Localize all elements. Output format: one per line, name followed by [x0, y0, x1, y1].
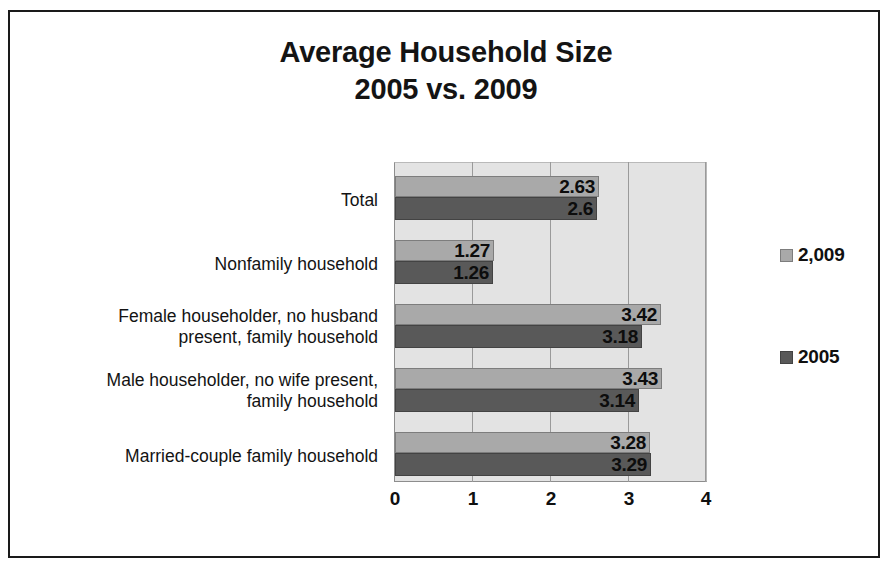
category-label-total: Total [48, 190, 378, 211]
bar-value-married-couple-2005: 3.29 [611, 454, 647, 476]
category-label-female-householder: Female householder, no husband present, … [48, 306, 378, 349]
bar-married-couple-2005[interactable]: 3.29 [395, 453, 651, 476]
bar-group-nonfamily: 1.27 1.26 [395, 240, 706, 284]
bar-male-householder-2005[interactable]: 3.14 [395, 389, 639, 412]
bar-value-nonfamily-2009: 1.27 [454, 240, 490, 262]
bar-group-total: 2.63 2.6 [395, 176, 706, 220]
bar-total-2005[interactable]: 2.6 [395, 197, 597, 220]
category-label-male-householder: Male householder, no wife present, famil… [48, 370, 378, 413]
legend-label-2009: 2,009 [798, 244, 845, 266]
chart-title-line-2: 2005 vs. 2009 [10, 71, 882, 108]
bar-nonfamily-2009[interactable]: 1.27 [395, 240, 494, 261]
bar-value-total-2009: 2.63 [559, 176, 595, 198]
legend-entry-2005[interactable]: 2005 [780, 346, 839, 368]
bar-group-female-householder: 3.42 3.18 [395, 304, 706, 348]
category-label-male-householder-line-1: Male householder, no wife present, [48, 370, 378, 391]
bar-value-female-householder-2005: 3.18 [602, 326, 638, 348]
bar-value-married-couple-2009: 3.28 [610, 432, 646, 454]
category-label-married-couple-line-1: Married-couple family household [125, 446, 378, 466]
bar-value-male-householder-2009: 3.43 [622, 368, 658, 390]
category-label-married-couple: Married-couple family household [48, 446, 378, 467]
x-tick-2: 2 [546, 488, 557, 510]
category-label-total-line-1: Total [341, 190, 378, 210]
bar-female-householder-2009[interactable]: 3.42 [395, 304, 661, 325]
bar-value-male-householder-2005: 3.14 [599, 390, 635, 412]
bar-value-total-2005: 2.6 [567, 198, 593, 220]
legend-swatch-icon-2009 [780, 249, 793, 262]
x-tick-0: 0 [390, 488, 401, 510]
category-label-male-householder-line-2: family household [48, 391, 378, 412]
bar-group-male-householder: 3.43 3.14 [395, 368, 706, 412]
bar-married-couple-2009[interactable]: 3.28 [395, 432, 650, 453]
bar-value-nonfamily-2005: 1.26 [453, 262, 489, 284]
x-axis: 0 1 2 3 4 [394, 488, 707, 518]
bar-group-married-couple: 3.28 3.29 [395, 432, 706, 476]
x-tick-4: 4 [701, 488, 712, 510]
chart-title-line-1: Average Household Size [10, 34, 882, 71]
bar-value-female-householder-2009: 3.42 [621, 304, 657, 326]
bar-nonfamily-2005[interactable]: 1.26 [395, 261, 493, 284]
bar-total-2009[interactable]: 2.63 [395, 176, 599, 197]
category-label-nonfamily: Nonfamily household [48, 254, 378, 275]
category-label-female-householder-line-2: present, family household [48, 327, 378, 348]
legend-entry-2009[interactable]: 2,009 [780, 244, 845, 266]
chart-frame: Average Household Size 2005 vs. 2009 2.6… [8, 10, 880, 558]
bar-female-householder-2005[interactable]: 3.18 [395, 325, 642, 348]
legend-label-2005: 2005 [798, 346, 839, 368]
category-label-female-householder-line-1: Female householder, no husband [48, 306, 378, 327]
legend-swatch-icon-2005 [780, 351, 793, 364]
chart-title: Average Household Size 2005 vs. 2009 [10, 34, 882, 108]
x-tick-3: 3 [624, 488, 635, 510]
plot-area-wrapper: 2.63 2.6 1.27 1.26 3.42 3.18 [394, 162, 707, 482]
category-label-nonfamily-line-1: Nonfamily household [215, 254, 378, 274]
x-tick-1: 1 [468, 488, 479, 510]
bar-male-householder-2009[interactable]: 3.43 [395, 368, 662, 389]
